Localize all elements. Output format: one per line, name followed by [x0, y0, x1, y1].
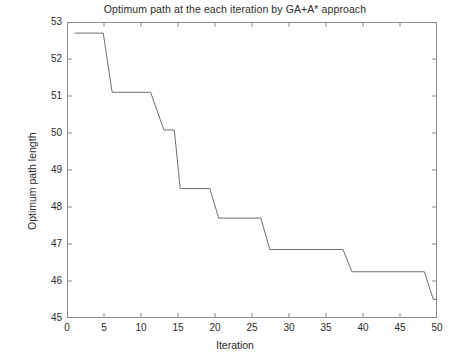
- y-tick-label: 51: [32, 90, 62, 101]
- y-axis-label: Optimum path length: [26, 133, 38, 230]
- x-tick-label: 35: [311, 322, 341, 333]
- y-tick-label: 46: [32, 275, 62, 286]
- x-tick-label: 45: [385, 322, 415, 333]
- x-tick-label: 20: [200, 322, 230, 333]
- x-tick-label: 30: [274, 322, 304, 333]
- x-tick-label: 5: [89, 322, 119, 333]
- plot-area: [67, 22, 437, 318]
- figure-canvas: Optimum path at the each iteration by GA…: [0, 0, 470, 360]
- x-tick-label: 25: [237, 322, 267, 333]
- x-tick-label: 40: [348, 322, 378, 333]
- x-axis-label: Iteration: [0, 339, 470, 351]
- axis-tick-marks: [67, 22, 437, 318]
- x-tick-label: 0: [52, 322, 82, 333]
- y-tick-label: 52: [32, 53, 62, 64]
- x-tick-label: 50: [422, 322, 452, 333]
- chart-title: Optimum path at the each iteration by GA…: [0, 3, 470, 15]
- x-tick-label: 10: [126, 322, 156, 333]
- y-tick-label: 47: [32, 238, 62, 249]
- y-tick-label: 53: [32, 16, 62, 27]
- optimum-path-line: [74, 33, 437, 299]
- x-tick-label: 15: [163, 322, 193, 333]
